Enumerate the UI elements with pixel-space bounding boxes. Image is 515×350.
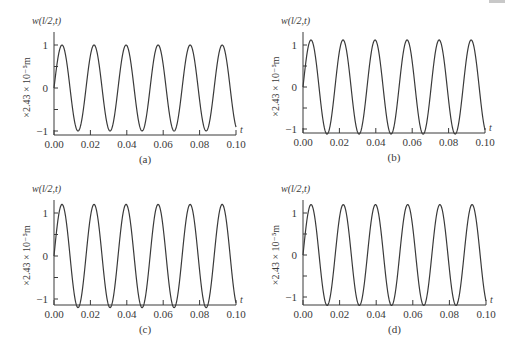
figure: w(l/2,t) ×2.43 × 10⁻⁵m t (a) 0.000.020.0… <box>0 0 515 350</box>
x-tick-label: 0.00 <box>44 308 64 320</box>
y-tick-labels: 10−1 <box>285 39 297 135</box>
x-tick-label: 0.04 <box>117 138 137 150</box>
x-tick-label: 0.04 <box>117 308 137 320</box>
panel-title: w(l/2,t) <box>281 15 311 27</box>
x-tick-label: 0.00 <box>293 308 313 320</box>
panel-d: w(l/2,t) ×2.43 × 10⁻⁵m t (d) 0.000.020.0… <box>270 183 496 336</box>
panel-caption: (b) <box>388 151 401 164</box>
panel-title: w(l/2,t) <box>281 183 311 195</box>
x-tick-label: 0.00 <box>44 138 64 150</box>
x-tick-label: 0.10 <box>226 138 246 150</box>
x-tick-labels: 0.000.020.040.060.080.10 <box>293 308 496 320</box>
y-tick-label: −1 <box>36 293 48 305</box>
y-tick-label: 1 <box>292 207 298 219</box>
x-tick-label: 0.08 <box>440 308 460 320</box>
x-tick-label: 0.06 <box>403 136 423 148</box>
x-tick-label: 0.02 <box>330 308 349 320</box>
x-tick-label: 0.04 <box>367 308 387 320</box>
panel-caption: (c) <box>139 323 152 336</box>
panel-b: w(l/2,t) ×2.43 × 10⁻⁵m t (b) 0.000.020.0… <box>270 15 495 164</box>
response-curve <box>303 40 485 134</box>
y-tick-label: 1 <box>43 39 49 51</box>
panel-caption: (a) <box>139 153 152 166</box>
x-tick-label: 0.08 <box>190 308 210 320</box>
y-tick-labels: 10−1 <box>285 207 297 303</box>
panel-c: w(l/2,t) ×2.43 × 10⁻⁵m t (c) 0.000.020.0… <box>21 183 246 336</box>
y-tick-label: −1 <box>36 125 48 137</box>
x-tick-label: 0.10 <box>475 136 495 148</box>
panel-caption: (d) <box>388 323 401 336</box>
corner-mark <box>489 0 505 3</box>
x-tick-label: 0.06 <box>154 138 174 150</box>
y-tick-labels: 10−1 <box>36 207 48 305</box>
x-tick-labels: 0.000.020.040.060.080.10 <box>293 136 495 148</box>
panel-a: w(l/2,t) ×2.43 × 10⁻⁵m t (a) 0.000.020.0… <box>21 15 246 166</box>
y-axis-label: ×2.43 × 10⁻⁵m <box>270 225 281 286</box>
y-axis-label: ×2.43 × 10⁻⁵m <box>21 57 32 118</box>
response-curve <box>54 45 236 131</box>
axes <box>54 200 236 305</box>
x-axis-label: t <box>489 122 492 133</box>
y-tick-label: 1 <box>43 207 49 219</box>
y-tick-label: 1 <box>292 39 298 51</box>
y-tick-label: 0 <box>43 82 49 94</box>
x-axis-label: t <box>240 294 243 305</box>
x-tick-label: 0.08 <box>190 138 210 150</box>
y-tick-label: 0 <box>43 250 49 262</box>
x-tick-label: 0.02 <box>81 308 100 320</box>
y-tick-label: 0 <box>292 81 298 93</box>
x-tick-label: 0.04 <box>366 136 386 148</box>
y-axis-label: ×2.43 × 10⁻⁵m <box>270 56 281 117</box>
plots-canvas: w(l/2,t) ×2.43 × 10⁻⁵m t (a) 0.000.020.0… <box>0 0 515 350</box>
x-axis-label: t <box>490 294 493 305</box>
x-tick-labels: 0.000.020.040.060.080.10 <box>44 138 246 150</box>
x-axis-label: t <box>240 124 243 135</box>
x-tick-label: 0.06 <box>154 308 174 320</box>
response-curve <box>54 204 236 307</box>
panel-title: w(l/2,t) <box>32 15 62 27</box>
response-curve <box>303 205 486 306</box>
axes <box>303 32 485 133</box>
x-tick-label: 0.10 <box>476 308 496 320</box>
x-tick-label: 0.06 <box>403 308 423 320</box>
axes <box>303 200 486 305</box>
x-tick-label: 0.02 <box>81 138 100 150</box>
x-tick-label: 0.08 <box>439 136 459 148</box>
y-tick-label: 0 <box>292 249 298 261</box>
y-tick-label: −1 <box>285 123 297 135</box>
panel-title: w(l/2,t) <box>32 183 62 195</box>
x-tick-label: 0.10 <box>226 308 246 320</box>
x-tick-labels: 0.000.020.040.060.080.10 <box>44 308 246 320</box>
x-tick-label: 0.00 <box>293 136 313 148</box>
y-tick-labels: 10−1 <box>36 39 48 137</box>
x-tick-label: 0.02 <box>330 136 349 148</box>
y-axis-label: ×2.43 × 10⁻⁵m <box>21 225 32 286</box>
y-tick-label: −1 <box>285 291 297 303</box>
